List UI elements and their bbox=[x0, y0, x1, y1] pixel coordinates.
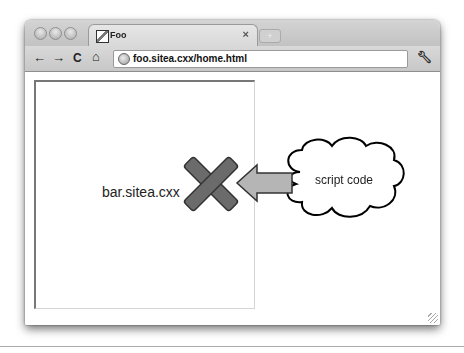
diagram-overlay bbox=[0, 0, 464, 353]
arrow-left-shape bbox=[237, 165, 292, 201]
divider bbox=[0, 346, 464, 347]
cloud-label: script code bbox=[315, 173, 373, 187]
